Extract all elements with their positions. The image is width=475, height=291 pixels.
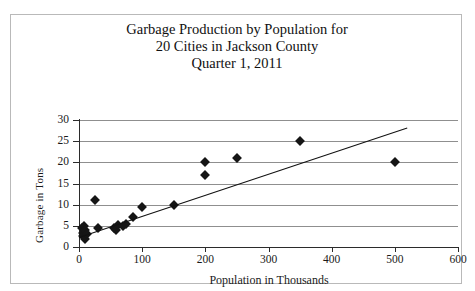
y-tick-label: 15 [39, 178, 69, 189]
y-tick-label: 0 [39, 241, 69, 252]
gridline-y [79, 162, 458, 163]
gridline-y [79, 205, 458, 206]
y-tick [73, 141, 79, 142]
x-tick-label: 100 [122, 253, 162, 265]
x-tick [205, 247, 206, 252]
x-tick [458, 247, 459, 252]
y-tick-label: 20 [39, 156, 69, 167]
chart-title: Garbage Production by Population for 20 … [11, 21, 463, 72]
y-tick-label: 25 [39, 135, 69, 146]
y-tick [73, 184, 79, 185]
x-axis-title: Population in Thousands [79, 273, 459, 288]
x-tick-label: 500 [375, 253, 415, 265]
x-tick [269, 247, 270, 252]
chart-title-line-1: Garbage Production by Population for [11, 21, 463, 38]
chart-frame: Garbage Production by Population for 20 … [10, 14, 462, 284]
chart-title-line-2: 20 Cities in Jackson County [11, 38, 463, 55]
x-tick [332, 247, 333, 252]
y-tick [73, 205, 79, 206]
gridline-y [79, 184, 458, 185]
gridline-y [79, 141, 458, 142]
gridline-y [79, 120, 458, 121]
x-tick-label: 200 [185, 253, 225, 265]
y-tick-label: 5 [39, 220, 69, 231]
x-tick-label: 300 [249, 253, 289, 265]
y-tick-label: 10 [39, 199, 69, 210]
x-tick-label: 0 [59, 253, 99, 265]
x-tick [79, 247, 80, 252]
x-tick [395, 247, 396, 252]
plot-area [79, 120, 458, 247]
y-tick [73, 120, 79, 121]
y-tick-label: 30 [39, 114, 69, 125]
x-tick [142, 247, 143, 252]
gridline-y [79, 226, 458, 227]
x-tick-label: 600 [438, 253, 475, 265]
chart-title-line-3: Quarter 1, 2011 [11, 55, 463, 72]
y-tick [73, 162, 79, 163]
x-tick-label: 400 [312, 253, 352, 265]
